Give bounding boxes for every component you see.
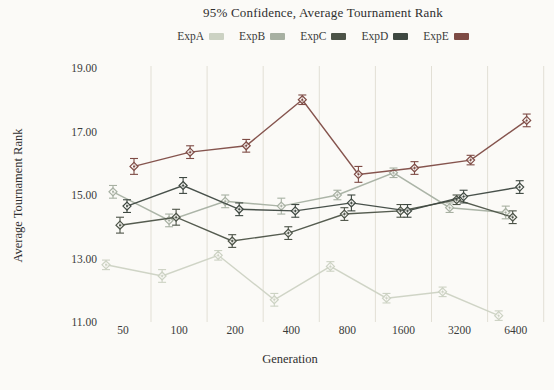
marker-dot-expa [386,297,388,299]
marker-dot-expb [280,205,282,207]
marker-dot-expe [414,167,416,169]
x-tick-label: 800 [339,324,357,336]
x-tick-label: 3200 [448,324,471,336]
series-line-expe [134,100,527,175]
marker-dot-expc [231,240,233,242]
marker-dot-expb [168,219,170,221]
marker-dot-expa [105,264,107,266]
marker-dot-expb [393,172,395,174]
marker-dot-expd [294,210,296,212]
marker-dot-expa [161,275,163,277]
y-tick-label: 13.00 [71,253,97,265]
marker-dot-expd [182,184,184,186]
marker-dot-expe [245,145,247,147]
x-tick-label: 1600 [392,324,415,336]
marker-dot-expe [470,159,472,161]
marker-dot-expa [329,265,331,267]
marker-dot-expd [407,210,409,212]
marker-dot-expb [505,211,507,213]
marker-dot-expa [498,315,500,317]
series-line-expc [120,200,513,241]
x-tick-label: 6400 [504,324,527,336]
marker-dot-expa [273,299,275,301]
marker-dot-expe [301,99,303,101]
marker-dot-expb [336,194,338,196]
marker-dot-expd [519,186,521,188]
marker-dot-expa [217,254,219,256]
x-tick-label: 400 [283,324,301,336]
marker-dot-expe [133,165,135,167]
x-axis-title: Generation [262,352,318,367]
marker-dot-expb [112,191,114,193]
marker-dot-expc [175,216,177,218]
marker-dot-expd [126,205,128,207]
marker-dot-expc [119,224,121,226]
series-line-expb [113,173,506,221]
marker-dot-expd [463,196,465,198]
marker-dot-expc [287,232,289,234]
chart-plot-area: 5010020040080016003200640011.0013.0015.0… [0,0,554,390]
x-tick-label: 50 [117,324,129,336]
y-tick-label: 17.00 [71,126,97,138]
x-tick-label: 200 [227,324,245,336]
marker-dot-expe [189,151,191,153]
series-line-expa [106,255,499,315]
marker-dot-expc [512,216,514,218]
marker-dot-expe [526,119,528,121]
marker-dot-expb [449,207,451,209]
marker-dot-expe [357,173,359,175]
marker-dot-expd [238,208,240,210]
marker-dot-expc [343,213,345,215]
marker-dot-expa [442,291,444,293]
y-tick-label: 19.00 [71,62,97,74]
marker-dot-expb [224,200,226,202]
y-tick-label: 15.00 [71,189,97,201]
y-tick-label: 11.00 [72,316,98,328]
x-tick-label: 100 [170,324,188,336]
marker-dot-expd [350,202,352,204]
